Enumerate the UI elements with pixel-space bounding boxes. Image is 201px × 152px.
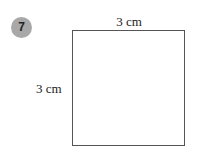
- top-side-label: 3 cm: [72, 14, 186, 30]
- problem-number-badge: 7: [11, 17, 32, 38]
- left-side-label: 3 cm: [36, 81, 62, 97]
- square-shape: [72, 30, 185, 146]
